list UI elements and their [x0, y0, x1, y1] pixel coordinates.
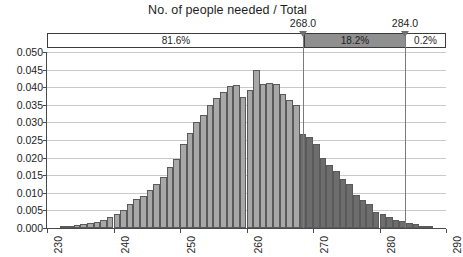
y-axis-tick-label: 0.025 — [17, 134, 43, 146]
x-axis-tick-label: 240 — [119, 236, 131, 254]
histogram-bar — [360, 200, 367, 228]
gridline — [47, 70, 446, 71]
histogram-bar — [107, 217, 114, 228]
histogram-bar — [140, 196, 147, 228]
x-axis-tick-label: 290 — [451, 236, 463, 254]
y-axis-tick-label: 0.045 — [17, 64, 43, 76]
histogram-bar — [253, 70, 260, 228]
histogram-bar — [147, 190, 154, 228]
y-axis-tick-label: 0.000 — [17, 222, 43, 234]
y-axis-tick-label: 0.015 — [17, 169, 43, 181]
histogram-bar — [114, 214, 121, 228]
histogram-bar — [273, 84, 280, 228]
histogram-bar — [200, 115, 207, 228]
histogram-bar — [153, 184, 160, 228]
histogram-bar — [373, 212, 380, 228]
histogram-bar — [160, 177, 167, 228]
x-axis-tick-label: 250 — [185, 236, 197, 254]
histogram-bar — [67, 226, 74, 228]
x-axis-tick-mark — [180, 229, 181, 233]
histogram-bar — [353, 195, 360, 228]
histogram-bar — [247, 90, 254, 228]
histogram-bar — [87, 223, 94, 228]
histogram-bar — [340, 179, 347, 228]
x-axis-tick-label: 280 — [385, 236, 397, 254]
y-axis-tick-label: 0.035 — [17, 99, 43, 111]
histogram-bar — [333, 171, 340, 228]
region-segment-below-lower-cut[interactable]: 81.6% — [48, 34, 304, 47]
histogram-bar — [100, 220, 107, 228]
y-axis-tick-label: 0.050 — [17, 46, 43, 58]
y-axis-tick-labels: 0.0000.0050.0100.0150.0200.0250.0300.035… — [0, 0, 43, 257]
histogram-bar — [240, 97, 247, 228]
histogram-bar — [386, 217, 393, 228]
histogram-bar — [306, 137, 313, 228]
histogram-bar — [213, 98, 220, 228]
x-axis-tick-label: 260 — [252, 236, 264, 254]
histogram-bar — [180, 144, 187, 228]
x-axis-tick-label: 230 — [52, 236, 64, 254]
histogram-bar — [94, 222, 101, 228]
histogram-bar — [393, 220, 400, 228]
histogram-bar — [74, 225, 81, 228]
histogram-bar — [187, 133, 194, 228]
lower-cut-value-label: 268.0 — [290, 17, 316, 29]
histogram-bar — [313, 144, 320, 228]
region-segment-above-upper-cut[interactable]: 0.2% — [406, 34, 445, 47]
histogram-bar — [120, 210, 127, 228]
x-axis-tick-mark — [114, 229, 115, 233]
histogram-bar — [167, 167, 174, 228]
histogram-bar — [173, 159, 180, 228]
x-axis-tick-mark — [313, 229, 314, 233]
x-axis-tick-label: 270 — [318, 236, 330, 254]
x-axis-tick-mark — [380, 229, 381, 233]
histogram-bar — [320, 158, 327, 228]
y-axis-tick-label: 0.030 — [17, 116, 43, 128]
histogram-bar — [346, 184, 353, 228]
region-segment-between-cuts[interactable]: 18.2% — [304, 34, 406, 47]
gridline — [47, 87, 446, 88]
histogram-bar — [366, 204, 373, 228]
histogram-bar — [406, 223, 413, 228]
histogram-bar — [80, 224, 87, 228]
x-axis-tick-mark — [247, 229, 248, 233]
y-axis-tick-label: 0.005 — [17, 204, 43, 216]
histogram-bar — [127, 204, 134, 228]
histogram-bar — [233, 85, 240, 228]
histogram-bar — [380, 214, 387, 228]
histogram-bar — [227, 86, 234, 228]
histogram-bar — [280, 94, 287, 228]
gridline — [47, 52, 446, 53]
region-percentage-bar[interactable]: 81.6% 18.2% 0.2% — [47, 33, 446, 48]
x-axis-tick-mark — [47, 229, 48, 233]
chart-title: No. of people needed / Total — [0, 3, 455, 17]
histogram-bar — [60, 226, 67, 228]
y-axis-tick-label: 0.010 — [17, 187, 43, 199]
lower-cut-line — [303, 33, 304, 228]
histogram-bar — [419, 226, 426, 228]
histogram-bar — [413, 224, 420, 228]
x-axis-tick-mark — [446, 229, 447, 233]
histogram-bar — [286, 100, 293, 228]
histogram-bar — [326, 165, 333, 228]
upper-cut-line — [405, 33, 406, 228]
histogram-bar — [426, 226, 433, 228]
histogram-bar — [266, 83, 273, 228]
histogram-bar — [193, 122, 200, 228]
y-axis-tick-label: 0.020 — [17, 152, 43, 164]
plot-area — [47, 52, 446, 228]
y-axis-tick-label: 0.040 — [17, 81, 43, 93]
histogram-bar — [293, 105, 300, 228]
histogram-bar — [220, 92, 227, 228]
histogram-bar — [133, 199, 140, 228]
histogram-bar — [260, 84, 267, 228]
histogram-bar — [207, 105, 214, 228]
upper-cut-value-label: 284.0 — [392, 17, 418, 29]
